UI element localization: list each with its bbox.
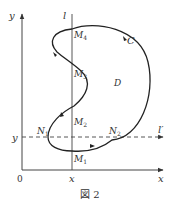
y-tick-label: y (11, 132, 18, 143)
line-l-prime-label: l′ (158, 124, 164, 135)
curve-c (48, 26, 150, 152)
x-tick-label: x (69, 173, 75, 184)
curve-c-label: C (127, 35, 135, 46)
x-axis-label: x (158, 173, 164, 184)
arrow-on-curve-bottom (90, 144, 95, 148)
point-m2-label: M2 (73, 117, 87, 128)
arrow-on-curve-left (53, 52, 57, 57)
point-n2-label: N2 (108, 126, 121, 137)
region-d-label: D (113, 78, 121, 88)
origin-label: 0 (17, 174, 23, 184)
point-m3-label: M3 (73, 69, 87, 80)
y-axis-label: y (8, 10, 15, 21)
point-n1-label: N1 (36, 126, 49, 137)
diagram: y l M4 C M3 D M2 N1 N2 l′ y M1 0 x x 図 2 (0, 0, 174, 208)
figure-caption: 図 2 (80, 189, 100, 200)
point-m4-label: M4 (73, 30, 87, 41)
point-m1-label: M1 (73, 154, 87, 165)
line-l-label: l (63, 10, 66, 21)
